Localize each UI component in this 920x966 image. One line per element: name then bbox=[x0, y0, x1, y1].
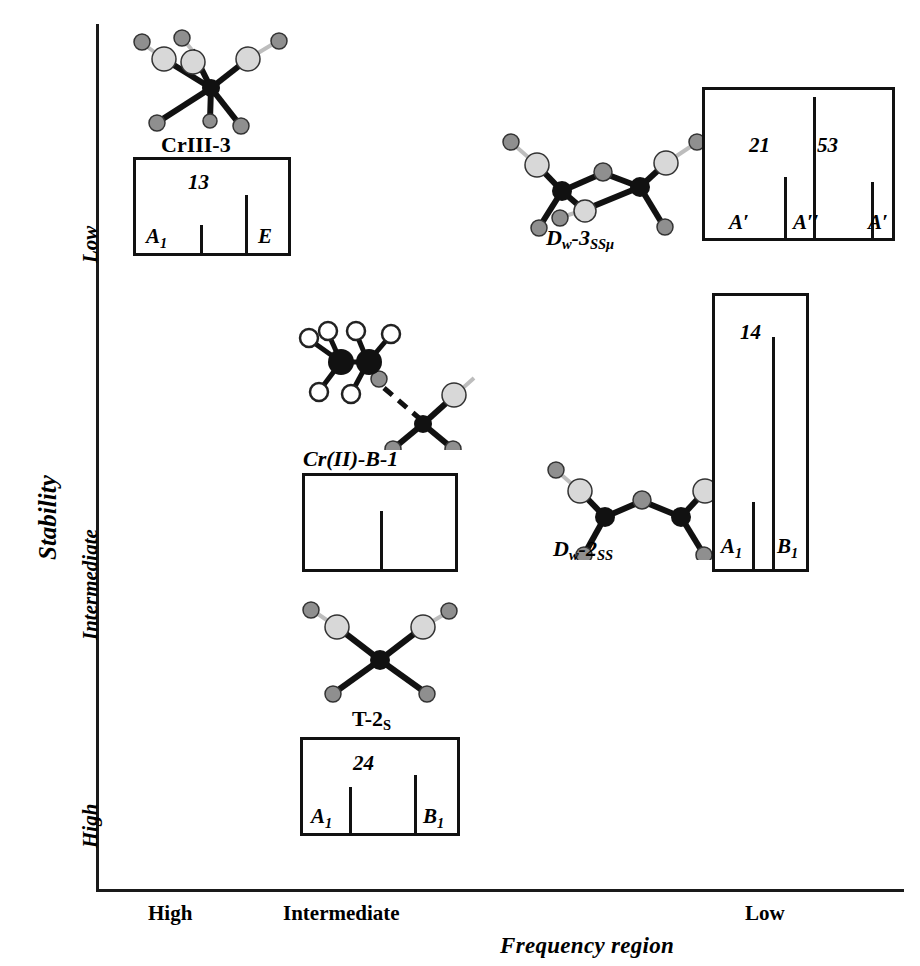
peak-label-text: B bbox=[777, 534, 791, 558]
spectrum-panel-dw-2ss: 14 A1 B1 bbox=[712, 293, 809, 572]
y-axis-title-text: Stability bbox=[34, 475, 61, 560]
molecule-structure-crII-B-1 bbox=[286, 300, 476, 450]
spectrum-gap-value: 53 bbox=[817, 135, 838, 156]
peak-label-sub: 1 bbox=[160, 235, 167, 251]
molecule-structure-t-2s bbox=[290, 600, 470, 710]
x-axis-line bbox=[96, 889, 904, 892]
spectrum-peak bbox=[380, 511, 383, 569]
spectrum-peak-label: E bbox=[258, 226, 272, 247]
structure-caption-sub: S bbox=[383, 717, 391, 733]
structure-caption-main: D bbox=[553, 536, 569, 561]
y-tick-intermediate-label: Intermediate bbox=[78, 529, 102, 640]
spectrum-panel-t-2s: 24 A1 B1 bbox=[300, 737, 460, 836]
spectrum-peak-label: A1 bbox=[721, 536, 742, 560]
structure-caption-t-2s: T-2S bbox=[352, 708, 391, 733]
structure-caption-mid: -3 bbox=[572, 225, 590, 250]
spectrum-peak-label: A′ bbox=[868, 212, 888, 233]
spectrum-peak-label: A1 bbox=[311, 806, 332, 830]
structure-caption-dw-3ssmu: Dw-3SSμ bbox=[546, 227, 614, 252]
spectrum-peak-label: A1 bbox=[146, 226, 167, 250]
x-tick-low: Low bbox=[745, 901, 785, 926]
spectrum-gap-value: 13 bbox=[188, 172, 209, 193]
peak-label-sub: 1 bbox=[735, 545, 742, 561]
x-tick-high: High bbox=[148, 901, 192, 926]
figure-canvas: Stability Low Intermediate High High Int… bbox=[0, 0, 920, 966]
spectrum-peak bbox=[414, 775, 417, 833]
y-tick-high: High bbox=[78, 804, 103, 848]
structure-caption-mid: -2 bbox=[579, 536, 597, 561]
spectrum-gap-value: 21 bbox=[749, 135, 770, 156]
y-tick-high-label: High bbox=[78, 804, 102, 848]
spectrum-gap-value: 14 bbox=[740, 322, 761, 343]
spectrum-peak bbox=[245, 195, 248, 253]
x-tick-intermediate: Intermediate bbox=[283, 901, 400, 926]
structure-caption-sub: SS bbox=[597, 547, 613, 563]
structure-caption-crIII-3: CrIII-3 bbox=[161, 134, 231, 156]
spectrum-peak bbox=[752, 502, 755, 569]
peak-label-text: A bbox=[146, 224, 160, 248]
structure-caption-dw-2ss: Dw-2SS bbox=[553, 538, 613, 563]
spectrum-panel-dw-3ssmu: 21 53 A′ A′′ A′ bbox=[702, 87, 895, 241]
peak-label-text: B bbox=[423, 804, 437, 828]
peak-label-sub: 1 bbox=[325, 815, 332, 831]
spectrum-peak-label: B1 bbox=[777, 536, 798, 560]
structure-caption-main: T-2 bbox=[352, 706, 383, 731]
spectrum-peak bbox=[349, 787, 352, 834]
peak-label-sub: 1 bbox=[791, 545, 798, 561]
spectrum-peak-label: B1 bbox=[423, 806, 444, 830]
y-axis-title: Stability bbox=[34, 475, 62, 560]
spectrum-gap-value: 24 bbox=[353, 753, 374, 774]
x-axis-title: Frequency region bbox=[500, 933, 674, 959]
spectrum-peak-label: A′′ bbox=[793, 212, 819, 233]
y-tick-intermediate: Intermediate bbox=[78, 529, 103, 640]
spectrum-peak bbox=[784, 177, 787, 238]
molecule-structure-dw-3ssmu bbox=[500, 125, 715, 240]
molecule-structure-crIII-3 bbox=[128, 26, 298, 138]
spectrum-panel-crIII-3: 13 A1 E bbox=[133, 157, 291, 256]
y-axis-line bbox=[96, 24, 99, 892]
spectrum-peak bbox=[772, 337, 775, 569]
structure-caption-sub: SSμ bbox=[590, 236, 614, 252]
structure-caption-sub-w: w bbox=[562, 236, 572, 252]
structure-caption-sub-w: w bbox=[569, 547, 579, 563]
spectrum-panel-crII-B-1 bbox=[302, 473, 458, 572]
y-tick-low-label: Low bbox=[78, 226, 102, 263]
spectrum-peak-label: A′ bbox=[729, 212, 749, 233]
peak-label-text: A bbox=[311, 804, 325, 828]
spectrum-peak bbox=[200, 225, 203, 253]
structure-caption-main: D bbox=[546, 225, 562, 250]
structure-caption-crII-B-1: Cr(II)-B-1 bbox=[303, 448, 398, 470]
peak-label-text: A bbox=[721, 534, 735, 558]
y-tick-low: Low bbox=[78, 226, 103, 263]
peak-label-sub: 1 bbox=[437, 815, 444, 831]
